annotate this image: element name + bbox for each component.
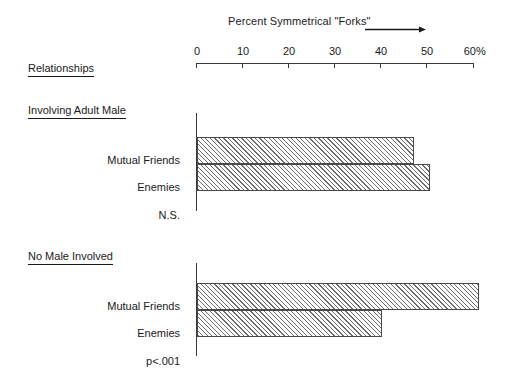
bar-enemies-adult-male — [197, 164, 430, 191]
bar-label-enemies: Enemies — [20, 181, 180, 193]
significance-label-group-1: N.S. — [20, 209, 180, 221]
bar-mutual-friends-adult-male — [197, 137, 414, 164]
x-axis-tick-60 — [473, 63, 474, 68]
x-axis-tick-labels: 0 10 20 30 40 50 60% — [0, 45, 505, 59]
x-axis-tick-20 — [288, 63, 289, 68]
x-axis-line — [196, 63, 474, 64]
row-axis-header: Relationships — [28, 62, 94, 77]
bar-chart: Percent Symmetrical "Forks" 0 10 20 30 4… — [0, 0, 505, 380]
axis-title: Percent Symmetrical "Forks" — [228, 15, 371, 27]
x-tick-label-10: 10 — [237, 45, 249, 57]
bar-label-enemies: Enemies — [20, 327, 180, 339]
x-tick-label-40: 40 — [375, 45, 387, 57]
bar-enemies-no-male — [197, 310, 382, 337]
x-axis-tick-30 — [334, 63, 335, 68]
x-tick-label-60: 60% — [464, 45, 486, 57]
x-tick-label-50: 50 — [421, 45, 433, 57]
bar-mutual-friends-no-male — [197, 283, 479, 310]
significance-label-group-2: p<.001 — [20, 355, 180, 367]
x-axis-tick-0 — [196, 63, 197, 68]
bar-label-mutual-friends: Mutual Friends — [20, 154, 180, 166]
arrow-icon — [365, 25, 427, 34]
x-axis-tick-50 — [426, 63, 427, 68]
x-axis-tick-10 — [242, 63, 243, 68]
bar-group-no-male-involved: Mutual Friends Enemies p<.001 — [0, 263, 505, 356]
x-tick-label-30: 30 — [329, 45, 341, 57]
x-tick-label-0: 0 — [194, 45, 200, 57]
x-tick-label-20: 20 — [283, 45, 295, 57]
bar-label-mutual-friends: Mutual Friends — [20, 300, 180, 312]
bar-group-involving-adult-male: Mutual Friends Enemies N.S. — [0, 113, 505, 211]
x-axis-tick-40 — [380, 63, 381, 68]
